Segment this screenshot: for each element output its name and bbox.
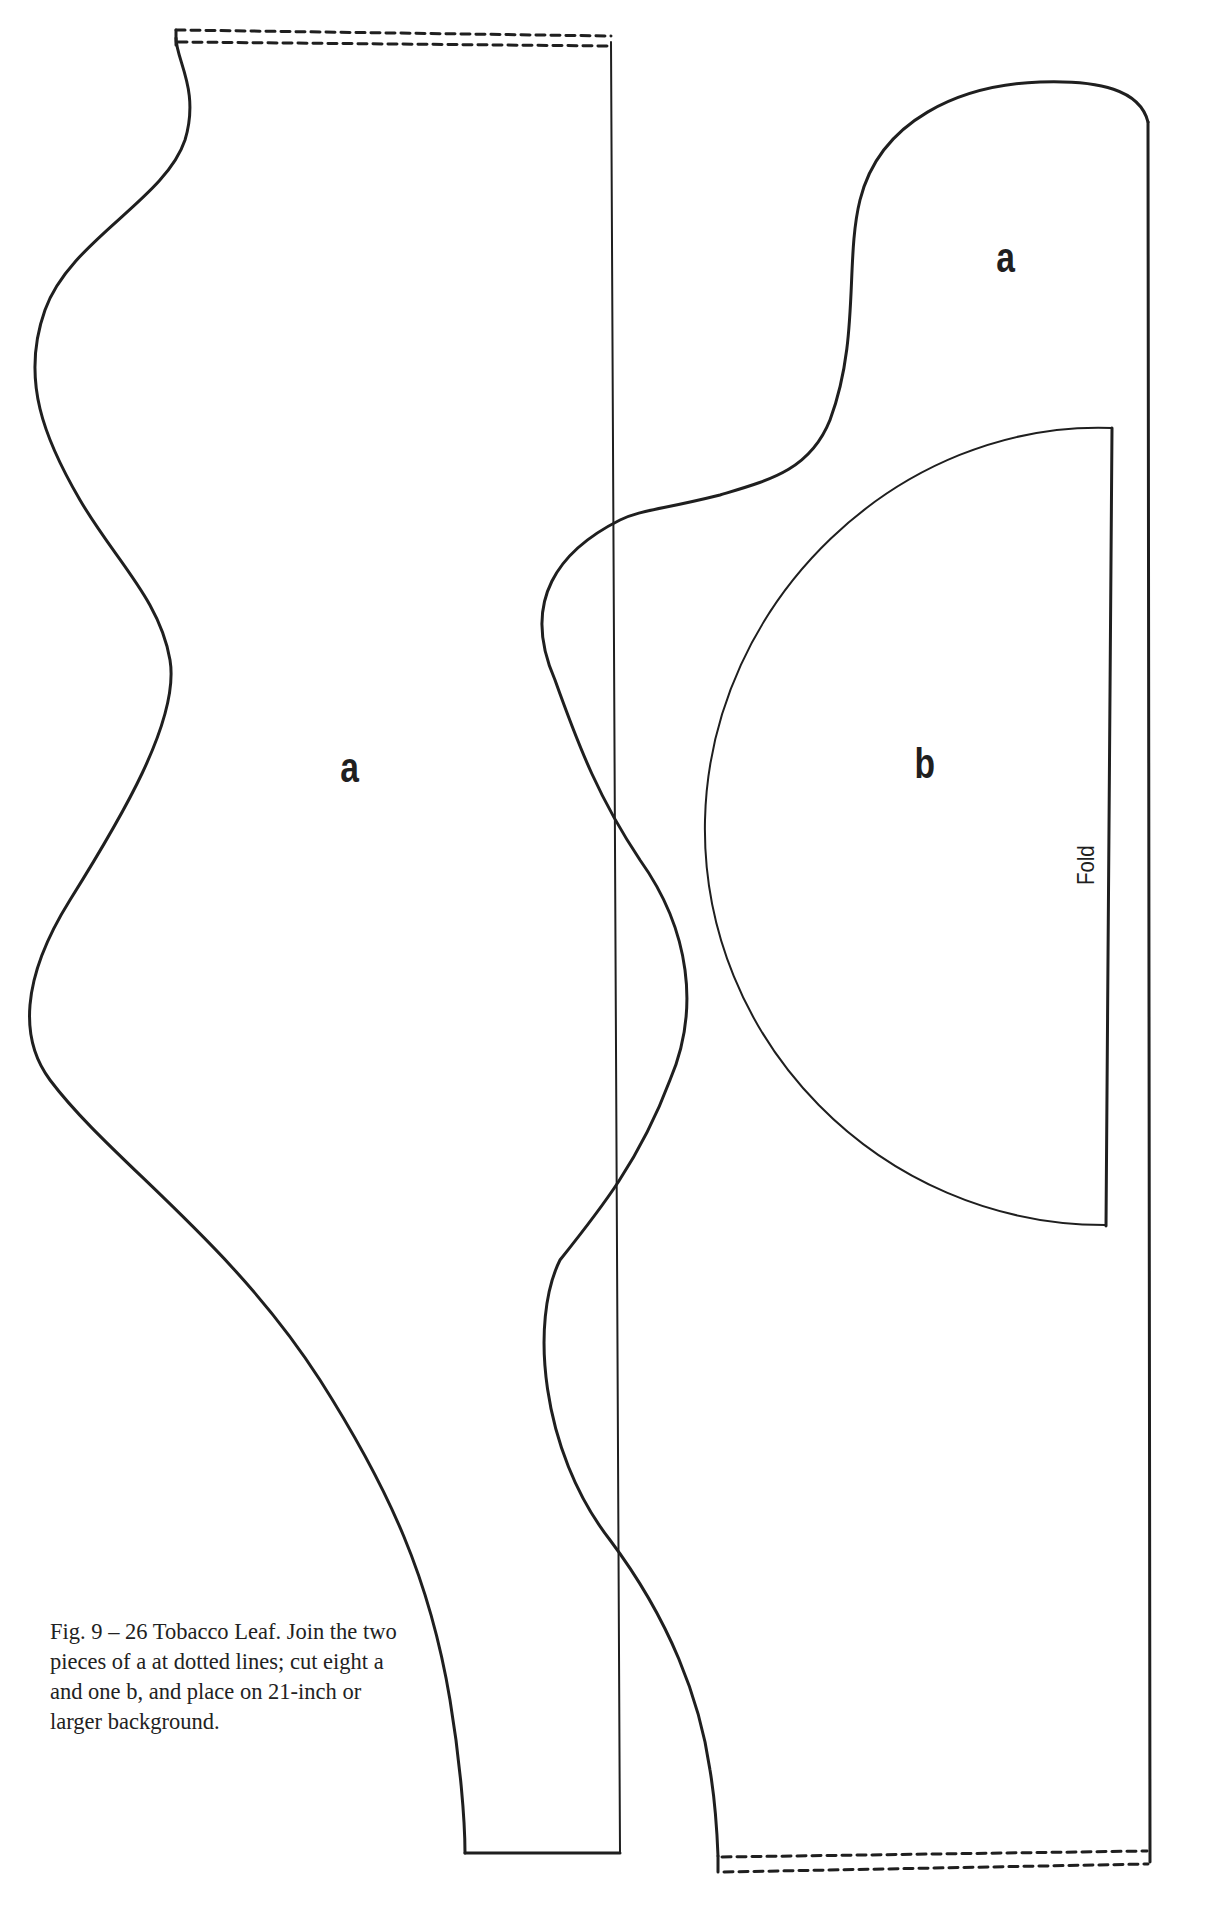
figure-caption: Fig. 9 – 26 Tobacco Leaf. Join the two p… xyxy=(50,1617,410,1737)
bottom-join-dotted-line-1 xyxy=(722,1851,1147,1857)
right-piece-right-edge xyxy=(1148,122,1150,1862)
piece-label-right-a: a xyxy=(996,234,1015,282)
piece-b-fold-edge xyxy=(1106,428,1112,1226)
bottom-join-dotted-line-2 xyxy=(724,1864,1148,1872)
pattern-figure: a a b Fold Fig. 9 – 26 Tobacco Leaf. Joi… xyxy=(0,0,1231,1905)
piece-b-outline xyxy=(705,428,1112,1225)
piece-label-left-a: a xyxy=(340,744,359,792)
piece-label-b: b xyxy=(915,740,936,788)
left-piece-a-outline xyxy=(30,38,465,1853)
right-piece-a-outline xyxy=(542,82,1148,1856)
top-join-dotted-line-1 xyxy=(176,30,611,36)
fold-label: Fold xyxy=(1072,845,1100,885)
top-join-dotted-line-2 xyxy=(178,42,611,46)
left-piece-right-edge xyxy=(611,42,620,1853)
